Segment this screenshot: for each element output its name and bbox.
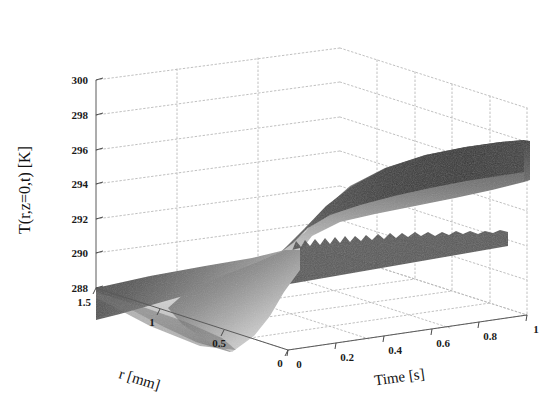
- z-tick-label: 294: [72, 178, 89, 190]
- r-tick-label: 1.5: [77, 296, 91, 308]
- r-axis-title: r [mm]: [117, 366, 162, 394]
- z-tick-label: 300: [72, 74, 89, 86]
- time-tick-label: 0.8: [483, 330, 497, 342]
- time-tick-label: 1: [533, 323, 539, 335]
- z-axis-title: T(r,z=0,t) [K]: [16, 146, 34, 234]
- surface-plot-figure: 300 298 296 294 292 290 288 1.5 1 0.5 0 …: [0, 0, 556, 416]
- surface-crest-teeth: [278, 230, 508, 286]
- z-axis-tick-labels: 300 298 296 294 292 290 288: [72, 74, 89, 294]
- plot-canvas: 300 298 296 294 292 290 288 1.5 1 0.5 0 …: [0, 0, 556, 416]
- r-tick-label: 0.5: [212, 337, 226, 349]
- z-axis-ticks: [96, 78, 103, 288]
- time-tick-label: 0.6: [436, 337, 450, 349]
- surface-end-cap: [524, 140, 530, 182]
- temperature-surface: [96, 140, 530, 352]
- z-tick-label: 288: [72, 282, 89, 294]
- time-axis-tick-labels: 0 0.2 0.4 0.6 0.8 1: [296, 323, 539, 370]
- z-tick-label: 296: [72, 144, 89, 156]
- time-tick-label: 0: [296, 358, 302, 370]
- time-tick-label: 0.4: [388, 344, 402, 356]
- time-axis-title: Time [s]: [373, 366, 425, 389]
- z-tick-label: 290: [72, 247, 89, 259]
- z-tick-label: 298: [72, 109, 89, 121]
- time-tick-label: 0.2: [340, 351, 354, 363]
- r-tick-label: 0: [277, 357, 283, 369]
- z-tick-label: 292: [72, 213, 89, 225]
- r-tick-label: 1: [149, 316, 155, 328]
